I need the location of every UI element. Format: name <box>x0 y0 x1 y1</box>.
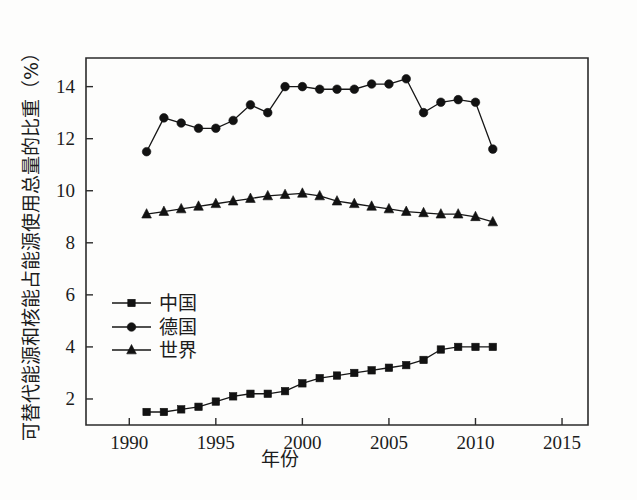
data-point-circle <box>471 98 480 107</box>
data-point-square <box>489 343 496 350</box>
data-point-square <box>281 387 288 394</box>
x-axis-title: 年份 <box>261 448 299 470</box>
legend-label: 中国 <box>159 292 197 314</box>
y-tick-label: 4 <box>66 336 76 357</box>
chart-figure: 2468101214 199019952000200520102015 中国德国… <box>0 0 637 500</box>
legend-item-中国[interactable]: 中国 <box>112 292 197 314</box>
data-point-circle <box>281 82 290 91</box>
y-axis-title: 可替代能源和核能占能源使用总量的比重（%） <box>20 43 42 441</box>
y-tick-label: 10 <box>56 180 75 201</box>
x-tick-label: 1990 <box>110 432 148 453</box>
legend-label: 世界 <box>159 339 197 361</box>
legend-item-世界[interactable]: 世界 <box>112 339 197 361</box>
data-point-circle <box>367 80 376 89</box>
y-tick-label: 6 <box>66 284 76 305</box>
data-point-circle <box>142 147 151 156</box>
series-德国 <box>142 75 497 156</box>
data-point-circle <box>488 145 497 154</box>
data-point-square <box>472 343 479 350</box>
x-tick-label: 2010 <box>456 432 494 453</box>
data-point-circle <box>127 323 136 332</box>
data-point-square <box>368 367 375 374</box>
data-point-circle <box>298 82 307 91</box>
data-point-triangle <box>127 344 137 353</box>
y-tick-label: 12 <box>56 128 75 149</box>
data-point-square <box>178 406 185 413</box>
data-point-square <box>229 393 236 400</box>
data-point-circle <box>160 114 169 123</box>
data-point-square <box>454 343 461 350</box>
data-point-triangle <box>298 188 308 197</box>
y-tick-label: 14 <box>56 76 76 97</box>
y-tick-label: 8 <box>66 232 76 253</box>
legend-item-德国[interactable]: 德国 <box>112 316 197 338</box>
data-point-square <box>385 364 392 371</box>
data-point-circle <box>350 85 359 94</box>
data-point-square <box>351 369 358 376</box>
plot-frame <box>86 58 588 425</box>
x-tick-label: 1995 <box>197 432 235 453</box>
data-point-square <box>264 390 271 397</box>
data-point-circle <box>333 85 342 94</box>
data-point-circle <box>229 116 238 125</box>
x-tick-label: 2005 <box>370 432 408 453</box>
data-point-circle <box>177 119 186 128</box>
data-point-circle <box>315 85 324 94</box>
data-point-square <box>247 390 254 397</box>
data-point-square <box>403 361 410 368</box>
data-point-square <box>333 372 340 379</box>
axes-group <box>86 58 588 425</box>
y-tick-label: 2 <box>66 388 76 409</box>
data-point-square <box>316 374 323 381</box>
data-point-circle <box>419 108 428 117</box>
y-axis-ticks: 2468101214 <box>56 76 93 409</box>
data-point-circle <box>263 108 272 117</box>
legend-label: 德国 <box>159 316 197 338</box>
data-point-square <box>195 403 202 410</box>
chart-legend: 中国德国世界 <box>112 292 197 361</box>
data-series-group <box>142 75 498 416</box>
data-point-square <box>160 408 167 415</box>
data-point-square <box>143 408 150 415</box>
data-point-square <box>128 299 135 306</box>
data-point-circle <box>385 80 394 89</box>
chart-canvas: 2468101214 199019952000200520102015 中国德国… <box>0 0 637 500</box>
data-point-circle <box>402 75 411 84</box>
data-point-circle <box>212 124 221 133</box>
data-point-square <box>437 346 444 353</box>
data-point-circle <box>454 95 463 104</box>
x-tick-label: 2015 <box>543 432 581 453</box>
x-axis-ticks: 199019952000200520102015 <box>110 418 581 453</box>
series-世界 <box>142 188 498 226</box>
data-point-square <box>212 398 219 405</box>
data-point-square <box>299 380 306 387</box>
data-point-circle <box>437 98 446 107</box>
data-point-circle <box>246 101 255 110</box>
data-point-circle <box>194 124 203 133</box>
data-point-triangle <box>453 209 463 218</box>
data-point-square <box>420 356 427 363</box>
